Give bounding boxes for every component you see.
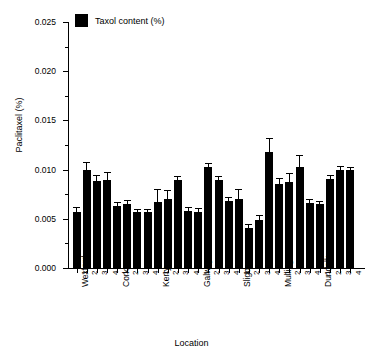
error-bar-cap: [215, 176, 222, 177]
error-bar: [350, 168, 351, 170]
error-bar-cap: [83, 162, 90, 163]
bar-group-item: [264, 22, 274, 268]
x-tick: [350, 269, 351, 273]
x-sample-label: 2: [90, 253, 99, 275]
x-sample-label: 3: [141, 253, 150, 275]
error-bar-cap: [337, 166, 344, 167]
error-bar-cap: [195, 208, 202, 209]
x-sample-label: 3: [181, 253, 190, 275]
error-bar: [259, 216, 260, 220]
bar-group-item: [92, 22, 102, 268]
bar-group-item: [173, 22, 183, 268]
x-sample-label: 3: [100, 253, 109, 275]
x-tick: [229, 269, 230, 273]
error-bar-cap: [185, 207, 192, 208]
bar-group-item: [295, 22, 305, 268]
error-bar: [319, 202, 320, 204]
error-bar: [76, 208, 77, 212]
x-sample-label: 2: [334, 253, 343, 275]
x-sample-label: 2: [212, 253, 221, 275]
error-bar-cap: [327, 175, 334, 176]
error-bar-cap: [124, 200, 131, 201]
error-bar-cap: [256, 215, 263, 216]
y-axis-labels: 0.0000.0050.0100.0150.0200.025: [0, 0, 60, 360]
x-sample-label: 3: [263, 253, 272, 275]
error-bar-cap: [245, 224, 252, 225]
error-bar: [238, 190, 239, 199]
error-bar: [228, 198, 229, 201]
x-tick: [198, 269, 199, 273]
x-tick: [107, 269, 108, 273]
x-group-label: Kerry: [161, 227, 171, 287]
bar-group-item: [143, 22, 153, 268]
error-bar: [269, 139, 270, 152]
plot-area: [69, 22, 365, 268]
error-bar: [340, 167, 341, 170]
error-bar: [107, 173, 108, 181]
error-bar-cap: [164, 190, 171, 191]
x-sample-label: 2: [293, 253, 302, 275]
bar-group-item: [305, 22, 315, 268]
error-bar-cap: [347, 167, 354, 168]
bar-group-item: [335, 22, 345, 268]
error-bar: [330, 176, 331, 180]
error-bar-cap: [144, 209, 151, 210]
x-group-label: Mullingar: [283, 227, 293, 287]
error-bar: [157, 190, 158, 202]
error-bar-cap: [316, 201, 323, 202]
error-bar-cap: [235, 189, 242, 190]
y-tick-label: 0.000: [12, 263, 56, 273]
bar-group-item: [254, 22, 264, 268]
error-bar-cap: [73, 207, 80, 208]
x-tick: [188, 269, 189, 273]
bar-group-item: [345, 22, 355, 268]
error-bar-cap: [174, 176, 181, 177]
error-bar: [198, 209, 199, 212]
error-bar: [127, 201, 128, 204]
error-bar: [137, 210, 138, 212]
error-bar: [96, 176, 97, 182]
x-sample-label: 3: [222, 253, 231, 275]
bar-group-item: [224, 22, 234, 268]
error-bar-cap: [93, 175, 100, 176]
x-tick: [310, 269, 311, 273]
x-group-label: Cork: [121, 227, 131, 287]
bar-group-item: [183, 22, 193, 268]
error-bar: [208, 164, 209, 167]
error-bar: [86, 163, 87, 170]
x-tick: [219, 269, 220, 273]
x-sample-label: 4: [313, 253, 322, 275]
error-bar: [309, 200, 310, 203]
x-group-label: Galway: [202, 227, 212, 287]
x-sample-label: 4: [111, 253, 120, 275]
y-tick-label: 0.010: [12, 165, 56, 175]
x-tick: [320, 269, 321, 273]
y-tick-label: 0.020: [12, 66, 56, 76]
y-tick-major: [63, 268, 69, 269]
error-bar: [299, 156, 300, 167]
error-bar: [167, 191, 168, 199]
error-bar: [147, 210, 148, 212]
x-sample-label: 2: [252, 253, 261, 275]
x-tick: [158, 269, 159, 273]
x-group-label: Dundalk: [323, 227, 333, 287]
error-bar-cap: [205, 163, 212, 164]
error-bar-cap: [306, 199, 313, 200]
x-tick: [77, 269, 78, 273]
error-bar-cap: [225, 197, 232, 198]
x-tick: [279, 269, 280, 273]
x-sample-label: 4: [192, 253, 201, 275]
bar-group-item: [214, 22, 224, 268]
x-sample-label: 2: [131, 253, 140, 275]
error-bar-cap: [134, 209, 141, 210]
bar-group-item: [132, 22, 142, 268]
x-sample-label: 3: [303, 253, 312, 275]
x-group-label: Wexford: [80, 227, 90, 287]
x-sample-label: 4: [232, 253, 241, 275]
x-tick: [269, 269, 270, 273]
x-tick: [137, 269, 138, 273]
error-bar-cap: [104, 172, 111, 173]
x-group-label: Sligo: [242, 227, 252, 287]
x-tick: [239, 269, 240, 273]
y-tick-label: 0.025: [12, 17, 56, 27]
